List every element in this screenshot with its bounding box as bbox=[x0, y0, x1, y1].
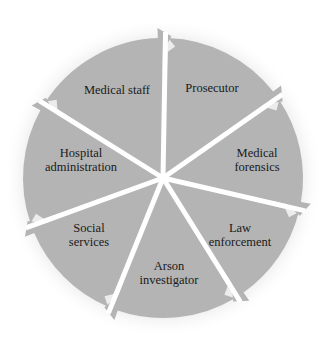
label-law-enforcement: Law enforcement bbox=[209, 221, 271, 249]
label-prosecutor: Prosecutor bbox=[185, 81, 238, 95]
label-medical-forensics: Medical forensics bbox=[234, 146, 279, 174]
label-medical-staff: Medical staff bbox=[84, 83, 150, 97]
divider-line bbox=[163, 32, 166, 178]
label-social-services: Social services bbox=[69, 221, 109, 249]
label-hospital-administration: Hospital administration bbox=[45, 146, 117, 174]
label-arson-investigator: Arson investigator bbox=[139, 259, 198, 287]
